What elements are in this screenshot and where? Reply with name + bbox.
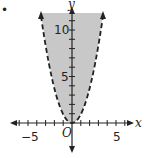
- y-axis-label: y: [67, 0, 75, 11]
- x-axis-arrow-left: [10, 120, 17, 126]
- x-tick-label-5: 5: [113, 130, 121, 144]
- y-tick-label-5: 5: [61, 70, 69, 84]
- x-axis-label: x: [135, 116, 142, 130]
- origin-label: O: [62, 126, 72, 140]
- x-axis-arrow-right: [127, 120, 134, 126]
- x-tick-label-neg5: −5: [21, 130, 39, 144]
- y-tick-label-10: 10: [54, 23, 69, 37]
- y-axis-arrow-down: [69, 146, 75, 153]
- bullet-marker: •: [1, 3, 8, 17]
- inequality-graph: • y x 10 5 −5 5 O: [0, 0, 144, 158]
